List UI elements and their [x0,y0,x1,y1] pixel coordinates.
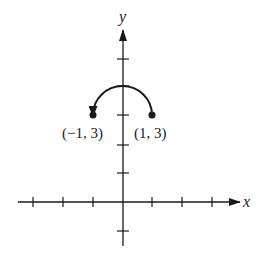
point-label-1-3: (1, 3) [134,125,167,142]
point-neg1-3 [90,112,97,119]
coordinate-diagram: (−1, 3) (1, 3) x y [0,0,264,258]
y-axis-label: y [117,8,127,26]
x-axis-label: x [242,193,250,210]
point-label-neg1-3: (−1, 3) [62,125,103,142]
point-1-3 [149,112,156,119]
